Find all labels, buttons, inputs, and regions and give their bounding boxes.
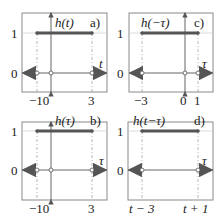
- endpoint-dot: [90, 129, 94, 133]
- open-circle: [183, 71, 187, 75]
- open-circle: [49, 71, 53, 75]
- x-tick: −10: [29, 201, 49, 216]
- y-tick-1: 1: [117, 26, 124, 41]
- endpoint-dot: [196, 31, 200, 35]
- endpoint-dot: [35, 31, 39, 35]
- panel-title: h(t): [55, 15, 74, 30]
- open-circle: [49, 168, 53, 172]
- x-tick: 3: [88, 201, 95, 216]
- y-tick-1: 1: [11, 124, 18, 139]
- x-tick: t − 3: [129, 201, 155, 216]
- x-tick: −3: [134, 93, 148, 108]
- x-tick: 0: [180, 93, 187, 108]
- open-circle: [196, 71, 200, 75]
- y-tick-0: 0: [117, 163, 124, 178]
- diagram-canvas: h(t) a) 1 0 t −10 3 h(−τ) c) 1 0 τ −3 0 …: [0, 0, 222, 216]
- panel-d: h(t−τ) d) 1 0 τ t − 3 t + 1: [117, 113, 213, 216]
- panel-c: h(−τ) c) 1 0 τ −3 0 1: [117, 13, 213, 108]
- axis-variable: τ: [99, 153, 105, 168]
- panel-title: h(τ): [55, 113, 75, 128]
- panel-tag: c): [194, 15, 204, 30]
- y-tick-0: 0: [117, 66, 124, 81]
- panel-tag: b): [90, 113, 101, 128]
- y-tick-0: 0: [11, 163, 18, 178]
- endpoint-dot: [140, 129, 144, 133]
- open-circle: [35, 71, 39, 75]
- y-tick-1: 1: [11, 26, 18, 41]
- panel-tag: a): [90, 15, 100, 30]
- axis-variable: t: [99, 56, 103, 71]
- panel-title: h(t−τ): [133, 113, 165, 128]
- axis-variable: τ: [202, 56, 208, 71]
- y-tick-1: 1: [117, 124, 124, 139]
- open-circle: [90, 71, 94, 75]
- panel-title: h(−τ): [141, 15, 170, 30]
- y-tick-0: 0: [11, 66, 18, 81]
- endpoint-dot: [196, 129, 200, 133]
- open-circle: [90, 168, 94, 172]
- axis-variable: τ: [202, 153, 208, 168]
- x-tick: 1: [194, 93, 201, 108]
- open-circle: [196, 168, 200, 172]
- panel-a: h(t) a) 1 0 t −10 3: [11, 13, 107, 108]
- endpoint-dot: [35, 129, 39, 133]
- x-tick: t + 1: [183, 201, 208, 216]
- endpoint-dot: [90, 31, 94, 35]
- x-tick: 3: [88, 93, 95, 108]
- open-circle: [35, 168, 39, 172]
- open-circle: [140, 168, 144, 172]
- panel-frame: [22, 122, 107, 200]
- panel-frame: [128, 122, 213, 200]
- panel-tag: d): [194, 113, 205, 128]
- open-circle: [140, 71, 144, 75]
- panel-b: h(τ) b) 1 0 τ −10 3: [11, 113, 107, 216]
- endpoint-dot: [140, 31, 144, 35]
- x-tick: −10: [29, 93, 49, 108]
